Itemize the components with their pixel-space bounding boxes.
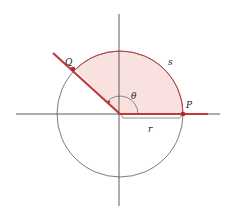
diagram-canvas: Q P θ s r (0, 0, 228, 211)
label-s: s (168, 57, 173, 67)
label-theta: θ (131, 91, 137, 101)
label-P: P (185, 100, 193, 110)
label-r: r (148, 124, 153, 134)
point-P (181, 112, 186, 117)
point-Q (71, 67, 76, 72)
sector-shading (76, 51, 184, 114)
label-Q: Q (65, 57, 73, 67)
